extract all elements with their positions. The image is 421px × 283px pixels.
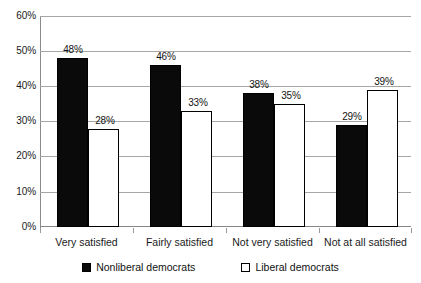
x-axis-tick: [226, 228, 227, 233]
category-label: Not very satisfied: [226, 236, 319, 248]
bar-value-label: 39%: [364, 77, 404, 87]
bar-value-label: 46%: [146, 52, 186, 62]
y-tick-label: 10%: [2, 187, 36, 197]
bar-nonliberal-not-at-all-satisfied: [336, 125, 367, 227]
bar-liberal-not-very-satisfied: [274, 104, 305, 227]
bar-value-label: 35%: [271, 91, 311, 101]
bar-value-label: 38%: [239, 80, 279, 90]
chart-legend: Nonliberal democrats Liberal democrats: [0, 261, 421, 273]
x-axis-tick: [319, 228, 320, 233]
outlined-square-icon: [241, 263, 250, 272]
gridline-60: [40, 16, 411, 17]
bar-liberal-very-satisfied: [88, 129, 119, 227]
bar-chart: 60% 50% 40% 30% 20% 10% 0% 48% 28% 46% 3…: [0, 0, 421, 283]
gridline-50: [40, 51, 411, 52]
category-label: Very satisfied: [40, 236, 133, 248]
y-tick-label: 50%: [2, 46, 36, 56]
y-tick-label: 60%: [2, 11, 36, 21]
bar-nonliberal-not-very-satisfied: [243, 93, 274, 227]
bar-value-label: 28%: [85, 116, 125, 126]
y-axis-labels: 60% 50% 40% 30% 20% 10% 0%: [0, 0, 36, 283]
y-tick-label: 40%: [2, 81, 36, 91]
x-axis-tick: [411, 228, 412, 233]
category-label: Not at all satisfied: [319, 236, 412, 248]
bar-liberal-fairly-satisfied: [181, 111, 212, 227]
legend-label: Liberal democrats: [255, 261, 338, 273]
x-axis-tick: [40, 228, 41, 233]
x-axis-labels: Very satisfied Fairly satisfied Not very…: [40, 236, 411, 252]
bar-liberal-not-at-all-satisfied: [367, 90, 398, 227]
bar-value-label: 33%: [178, 98, 218, 108]
legend-item-liberal-democrats: Liberal democrats: [241, 261, 338, 273]
bar-nonliberal-fairly-satisfied: [150, 65, 181, 227]
bar-value-label: 48%: [53, 45, 93, 55]
filled-square-icon: [82, 263, 91, 272]
x-axis-tick: [133, 228, 134, 233]
plot-area: 48% 28% 46% 33% 38% 35% 29% 39%: [40, 16, 411, 227]
y-tick-label: 0%: [2, 222, 36, 232]
gridline-40: [40, 86, 411, 87]
legend-item-nonliberal-democrats: Nonliberal democrats: [82, 261, 195, 273]
legend-label: Nonliberal democrats: [96, 261, 195, 273]
category-label: Fairly satisfied: [133, 236, 226, 248]
y-tick-label: 20%: [2, 151, 36, 161]
y-tick-label: 30%: [2, 116, 36, 126]
bar-nonliberal-very-satisfied: [57, 58, 88, 227]
bar-value-label: 29%: [332, 112, 372, 122]
